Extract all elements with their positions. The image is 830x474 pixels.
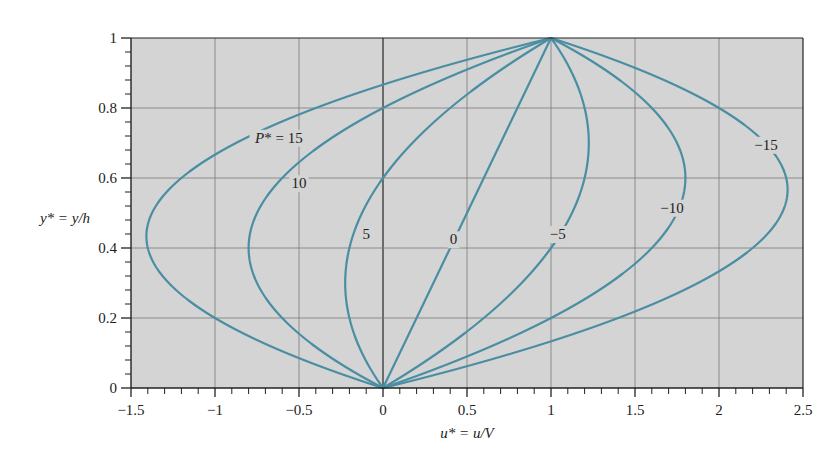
x-tick-label: 2.5 bbox=[794, 402, 813, 418]
x-tick-label: 0 bbox=[379, 402, 387, 418]
curve-label: 5 bbox=[362, 226, 370, 242]
x-tick-label: 2 bbox=[715, 402, 723, 418]
x-tick-label: −1 bbox=[207, 402, 223, 418]
x-tick-label: −0.5 bbox=[285, 402, 312, 418]
y-tick-label: 1 bbox=[110, 30, 118, 46]
y-tick-label: 0 bbox=[110, 380, 118, 396]
y-tick-label: 0.2 bbox=[98, 310, 117, 326]
curve-label: −15 bbox=[754, 137, 777, 153]
x-tick-label: 1 bbox=[547, 402, 555, 418]
curve-label: P* = 15 bbox=[254, 130, 303, 146]
x-tick-label: 0.5 bbox=[458, 402, 477, 418]
y-tick-label: 0.8 bbox=[98, 100, 117, 116]
curve-label: 0 bbox=[450, 231, 458, 247]
curve-label: 10 bbox=[292, 175, 307, 191]
y-tick-label: 0.4 bbox=[98, 240, 117, 256]
y-tick-label: 0.6 bbox=[98, 170, 117, 186]
x-tick-label: −1.5 bbox=[117, 402, 144, 418]
chart: P* = 151050−5−10−15 −1.5−1−0.500.511.522… bbox=[0, 0, 830, 474]
y-axis-label: y* = y/h bbox=[38, 210, 90, 226]
curve-label: −5 bbox=[550, 226, 566, 242]
x-axis-label: u* = u/V bbox=[440, 425, 495, 441]
x-tick-label: 1.5 bbox=[626, 402, 645, 418]
curve-label: −10 bbox=[660, 200, 683, 216]
